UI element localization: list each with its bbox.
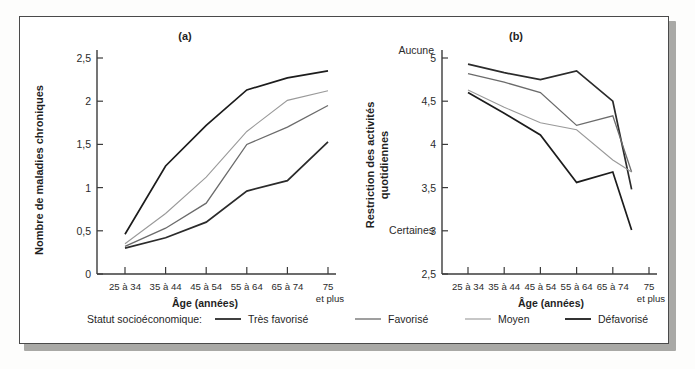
- legend-label-favorise: Favorisé: [388, 313, 428, 325]
- panel-b-y-tick-label-4: 4,5: [421, 95, 436, 107]
- panel-a-x-tick-label-4: 65 à 74: [271, 281, 304, 292]
- panel-a-x-tick-label-suffix: et plus: [316, 293, 344, 304]
- figure-root: (a) Nombre de maladies chroniques 00,511…: [0, 0, 695, 369]
- panel-b-label-certaines: Certaines: [389, 224, 434, 236]
- panel-b-y-ticks: 2,533,544,55: [421, 52, 448, 280]
- panel-a-series-1: [125, 106, 328, 247]
- panel-b-series-3: [468, 93, 632, 230]
- panel-b-x-tick-label-suffix: et plus: [637, 293, 665, 304]
- panel-b-x-tick-label-0: 25 à 34: [452, 281, 485, 292]
- panel-a-y-tick-label-3: 1,5: [76, 138, 91, 150]
- panel-b-series-0: [468, 64, 632, 189]
- panel-a-series-2: [125, 91, 328, 244]
- panel-a-y-tick-label-1: 0,5: [76, 225, 91, 237]
- panel-a-y-axis-title: Nombre de maladies chroniques: [33, 85, 45, 255]
- legend-label-tres_favorise: Très favorisé: [248, 313, 308, 325]
- panel-a-x-ticks: [125, 267, 328, 274]
- panel-b-x-tick-label-4: 65 à 74: [597, 281, 630, 292]
- panel-b-x-tick-label-2: 45 à 54: [524, 281, 557, 292]
- panel-a-series-lines: [125, 71, 328, 248]
- chart-panel-b: (b) Restriction des activités quotidienn…: [346, 20, 666, 310]
- legend-entries: Très favoriséFavoriséMoyenDéfavorisé: [215, 313, 648, 325]
- panel-b-label-aucune: Aucune: [398, 44, 434, 56]
- panel-b-x-tick-label-3: 55 à 64: [561, 281, 594, 292]
- panel-a-series-3: [125, 71, 328, 234]
- panel-a-x-tick-label-1: 35 à 44: [150, 281, 183, 292]
- panel-b-x-ticks: [468, 267, 649, 274]
- panel-b-series-2: [468, 90, 632, 172]
- panel-b-title: (b): [509, 30, 523, 42]
- panel-a-y-ticks: 00,511,522,5: [76, 52, 103, 280]
- panel-a-y-tick-label-0: 0: [85, 268, 91, 280]
- chart-legend: Statut socioéconomique: Très favoriséFav…: [25, 304, 665, 338]
- panel-a-y-tick-label-4: 2: [85, 95, 91, 107]
- panel-b-y-tick-label-0: 2,5: [421, 268, 436, 280]
- panel-b-series-1: [468, 74, 632, 173]
- panel-b-y-tick-label-2: 3,5: [421, 182, 436, 194]
- panel-b-x-tick-label-1: 35 à 44: [488, 281, 521, 292]
- panel-b-y-tick-label-3: 4: [430, 138, 436, 150]
- panel-b-series-lines: [468, 64, 632, 230]
- panel-a-title: (a): [178, 30, 192, 42]
- panel-a-x-tick-label-0: 25 à 34: [109, 281, 142, 292]
- chart-panel-a: (a) Nombre de maladies chroniques 00,511…: [25, 20, 345, 310]
- panel-a-x-tick-label-3: 55 à 64: [231, 281, 264, 292]
- panel-a-y-tick-label-2: 1: [85, 182, 91, 194]
- panel-b-y-axis-title-line1: Restriction des activités: [364, 102, 376, 229]
- panel-b-y-axis-title-line2: quotidiennes: [378, 131, 390, 199]
- panel-a-y-tick-label-5: 2,5: [76, 52, 91, 64]
- legend-title: Statut socioéconomique:: [87, 313, 202, 325]
- panel-a-x-tick-label-2: 45 à 54: [190, 281, 223, 292]
- legend-label-defavorise: Défavorisé: [598, 313, 648, 325]
- panel-b-x-tick-label-5: 75: [644, 281, 655, 292]
- panel-a-x-tick-label-5: 75: [323, 281, 334, 292]
- legend-label-moyen: Moyen: [498, 313, 530, 325]
- figure-panels: (a) Nombre de maladies chroniques 00,511…: [19, 16, 669, 344]
